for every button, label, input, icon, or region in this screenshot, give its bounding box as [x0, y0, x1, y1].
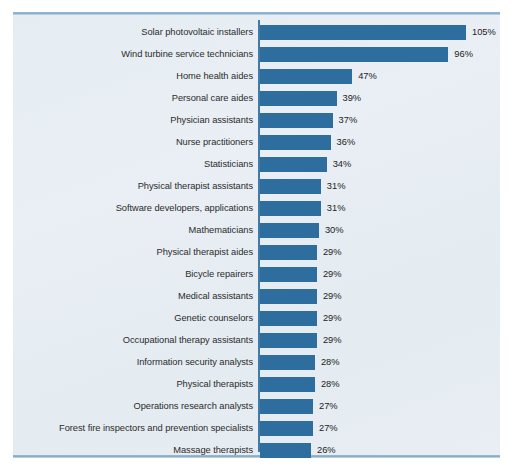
- category-label: Massage therapists: [13, 446, 253, 455]
- bar-and-value: 29%: [260, 245, 342, 260]
- bar-row: Forest fire inspectors and prevention sp…: [13, 418, 500, 440]
- category-label: Forest fire inspectors and prevention sp…: [13, 424, 253, 433]
- bar-value-label: 34%: [333, 160, 352, 169]
- category-label: Physical therapist aides: [13, 248, 253, 257]
- category-label: Home health aides: [13, 72, 253, 81]
- bar: [260, 47, 448, 62]
- category-label: Personal care aides: [13, 94, 253, 103]
- bar-value-label: 28%: [321, 380, 340, 389]
- bar-row: Statisticians34%: [13, 154, 500, 176]
- bar: [260, 157, 327, 172]
- bar-value-label: 96%: [454, 50, 473, 59]
- bar-and-value: 31%: [260, 201, 345, 216]
- category-label: Solar photovoltaic installers: [13, 28, 253, 37]
- bar: [260, 25, 466, 40]
- bar-row: Massage therapists26%: [13, 440, 500, 462]
- category-label: Physical therapist assistants: [13, 182, 253, 191]
- bar-and-value: 26%: [260, 443, 336, 458]
- bar-and-value: 31%: [260, 179, 345, 194]
- bar: [260, 443, 311, 458]
- category-label: Occupational therapy assistants: [13, 336, 253, 345]
- bar-row: Nurse practitioners36%: [13, 132, 500, 154]
- bar-value-label: 29%: [323, 270, 342, 279]
- bar: [260, 289, 317, 304]
- bar-row: Physician assistants37%: [13, 110, 500, 132]
- bar-row: Physical therapist aides29%: [13, 242, 500, 264]
- bar: [260, 201, 321, 216]
- bar: [260, 333, 317, 348]
- bar-and-value: 27%: [260, 399, 338, 414]
- bar-value-label: 27%: [319, 424, 338, 433]
- bar-value-label: 29%: [323, 336, 342, 345]
- bar-and-value: 37%: [260, 113, 357, 128]
- bar-value-label: 39%: [343, 94, 362, 103]
- bar-row: Wind turbine service technicians96%: [13, 44, 500, 66]
- bar: [260, 113, 333, 128]
- bar: [260, 135, 331, 150]
- bar-value-label: 27%: [319, 402, 338, 411]
- category-label: Bicycle repairers: [13, 270, 253, 279]
- bar: [260, 223, 319, 238]
- category-label: Information security analysts: [13, 358, 253, 367]
- category-label: Operations research analysts: [13, 402, 253, 411]
- bar-row: Genetic counselors29%: [13, 308, 500, 330]
- plot-area: Solar photovoltaic installers105%Wind tu…: [13, 14, 500, 456]
- bar-and-value: 29%: [260, 333, 342, 348]
- bar: [260, 69, 352, 84]
- category-label: Mathematicians: [13, 226, 253, 235]
- bar-value-label: 29%: [323, 248, 342, 257]
- category-label: Genetic counselors: [13, 314, 253, 323]
- bar-row: Bicycle repairers29%: [13, 264, 500, 286]
- bar-value-label: 31%: [327, 204, 346, 213]
- bar-and-value: 30%: [260, 223, 344, 238]
- bar-and-value: 27%: [260, 421, 338, 436]
- bar-value-label: 31%: [327, 182, 346, 191]
- bar-row: Medical assistants29%: [13, 286, 500, 308]
- bar: [260, 399, 313, 414]
- bar-chart-figure: Solar photovoltaic installers105%Wind tu…: [0, 0, 516, 475]
- bar-value-label: 29%: [323, 292, 342, 301]
- bar-value-label: 28%: [321, 358, 340, 367]
- category-label: Statisticians: [13, 160, 253, 169]
- bar-and-value: 28%: [260, 355, 340, 370]
- bar-and-value: 105%: [260, 25, 496, 40]
- bar-row: Information security analysts28%: [13, 352, 500, 374]
- bar-row: Physical therapist assistants31%: [13, 176, 500, 198]
- bar-value-label: 29%: [323, 314, 342, 323]
- category-label: Software developers, applications: [13, 204, 253, 213]
- bar-row: Occupational therapy assistants29%: [13, 330, 500, 352]
- bar: [260, 377, 315, 392]
- category-label: Physician assistants: [13, 116, 253, 125]
- bar-and-value: 47%: [260, 69, 377, 84]
- bar-rows-container: Solar photovoltaic installers105%Wind tu…: [13, 22, 500, 462]
- bar: [260, 267, 317, 282]
- bar: [260, 311, 317, 326]
- category-label: Physical therapists: [13, 380, 253, 389]
- bar: [260, 91, 337, 106]
- bar-and-value: 29%: [260, 267, 342, 282]
- bar-value-label: 37%: [339, 116, 358, 125]
- bar: [260, 355, 315, 370]
- bar-row: Software developers, applications31%: [13, 198, 500, 220]
- bar: [260, 179, 321, 194]
- category-label: Nurse practitioners: [13, 138, 253, 147]
- bar-row: Mathematicians30%: [13, 220, 500, 242]
- bar: [260, 421, 313, 436]
- bar-and-value: 34%: [260, 157, 351, 172]
- bar-value-label: 47%: [358, 72, 377, 81]
- bar-row: Physical therapists28%: [13, 374, 500, 396]
- bar-value-label: 36%: [337, 138, 356, 147]
- bar-row: Personal care aides39%: [13, 88, 500, 110]
- bar-and-value: 39%: [260, 91, 361, 106]
- category-label: Medical assistants: [13, 292, 253, 301]
- bar-and-value: 36%: [260, 135, 355, 150]
- bar-row: Home health aides47%: [13, 66, 500, 88]
- bar-value-label: 30%: [325, 226, 344, 235]
- bar: [260, 245, 317, 260]
- bar-value-label: 105%: [472, 28, 496, 37]
- bar-and-value: 29%: [260, 289, 342, 304]
- bar-row: Solar photovoltaic installers105%: [13, 22, 500, 44]
- bar-row: Operations research analysts27%: [13, 396, 500, 418]
- bar-and-value: 96%: [260, 47, 473, 62]
- category-label: Wind turbine service technicians: [13, 50, 253, 59]
